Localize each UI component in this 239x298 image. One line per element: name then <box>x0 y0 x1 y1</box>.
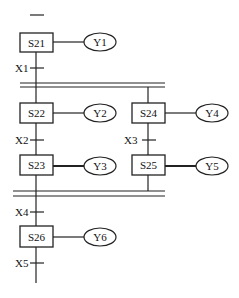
output-y2: Y2 <box>84 104 116 122</box>
svg-text:X4: X4 <box>15 206 29 218</box>
svg-text:S22: S22 <box>28 107 45 119</box>
svg-text:Y5: Y5 <box>205 160 219 172</box>
step-s21: S21 <box>20 33 53 52</box>
svg-text:Y4: Y4 <box>205 107 219 119</box>
output-y4: Y4 <box>196 104 228 122</box>
svg-text:S24: S24 <box>140 107 158 119</box>
svg-text:S25: S25 <box>140 159 158 171</box>
transition-x2: X2 <box>15 134 44 146</box>
svg-text:S23: S23 <box>28 159 46 171</box>
output-y3: Y3 <box>84 157 116 175</box>
step-s26: S26 <box>20 226 53 247</box>
output-y6: Y6 <box>84 228 116 246</box>
step-s25: S25 <box>132 155 165 175</box>
step-s24: S24 <box>132 103 165 123</box>
svg-text:Y2: Y2 <box>93 107 106 119</box>
step-s22: S22 <box>20 103 53 123</box>
output-y5: Y5 <box>196 157 228 175</box>
svg-text:X3: X3 <box>124 134 138 146</box>
output-y1: Y1 <box>84 33 116 51</box>
svg-text:X1: X1 <box>15 62 28 74</box>
svg-text:X2: X2 <box>15 134 28 146</box>
svg-text:Y6: Y6 <box>93 231 107 243</box>
sfc-diagram: X1 X2 X3 X4 X5 S21 Y1 S22 Y2 S23 <box>0 0 239 298</box>
transition-x4: X4 <box>15 206 44 218</box>
transition-x1: X1 <box>15 62 44 74</box>
svg-text:X5: X5 <box>15 257 29 269</box>
svg-text:S21: S21 <box>28 37 45 49</box>
svg-text:Y3: Y3 <box>93 160 107 172</box>
svg-text:S26: S26 <box>28 231 46 243</box>
step-s23: S23 <box>20 155 53 175</box>
svg-text:Y1: Y1 <box>93 36 106 48</box>
transition-x3: X3 <box>124 134 156 146</box>
transition-x5: X5 <box>15 257 44 269</box>
